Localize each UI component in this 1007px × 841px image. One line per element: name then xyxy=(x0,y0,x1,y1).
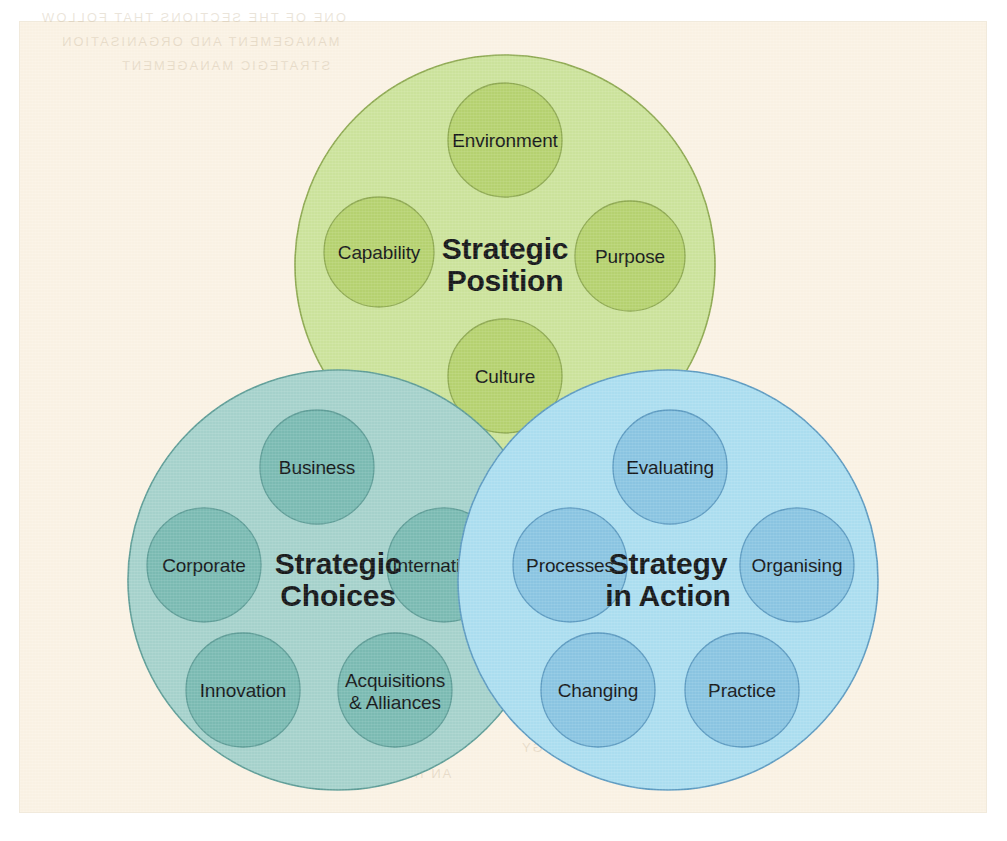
node-organising[interactable]: Organising xyxy=(740,508,854,622)
node-label: Capability xyxy=(338,242,421,263)
node-label-line2: & Alliances xyxy=(349,692,441,713)
node-label: Purpose xyxy=(595,246,665,267)
circle-title-line1: Strategic xyxy=(442,232,569,265)
node-evaluating[interactable]: Evaluating xyxy=(613,410,727,524)
node-practice[interactable]: Practice xyxy=(685,633,799,747)
node-label: Processes xyxy=(526,555,614,576)
circle-title-strategic-choices: StrategicChoices xyxy=(275,547,402,612)
node-label: Innovation xyxy=(200,680,287,701)
circle-title-line1: Strategic xyxy=(275,547,402,580)
node-label: Practice xyxy=(708,680,776,701)
node-label: Changing xyxy=(558,680,639,701)
circle-title-line2: Position xyxy=(447,264,564,297)
circle-title-line2: Choices xyxy=(280,579,395,612)
node-innovation[interactable]: Innovation xyxy=(186,633,300,747)
node-label: Evaluating xyxy=(626,457,714,478)
node-label: Business xyxy=(279,457,355,478)
node-label: Corporate xyxy=(162,555,246,576)
circle-title-strategic-position: StrategicPosition xyxy=(442,232,569,297)
node-business[interactable]: Business xyxy=(260,410,374,524)
node-capability[interactable]: Capability xyxy=(324,197,434,307)
venn-diagram-svg: EnvironmentPurposeCultureCapabilityStrat… xyxy=(0,0,1007,841)
node-corporate[interactable]: Corporate xyxy=(147,508,261,622)
node-label: Culture xyxy=(475,366,536,387)
node-label: Organising xyxy=(752,555,843,576)
node-acquisitions-alliances[interactable]: Acquisitions& Alliances xyxy=(338,633,452,747)
circle-title-strategy-in-action: Strategyin Action xyxy=(605,547,730,612)
node-label: Environment xyxy=(452,130,558,151)
node-environment[interactable]: Environment xyxy=(448,83,562,197)
node-label: Acquisitions& Alliances xyxy=(345,670,445,713)
circle-title-line1: Strategy xyxy=(609,547,728,580)
node-label-line1: Acquisitions xyxy=(345,670,445,691)
node-purpose[interactable]: Purpose xyxy=(575,201,685,311)
figure-canvas: ONE OF THE SECTIONS THAT FOLLOWMANAGEMEN… xyxy=(0,0,1007,841)
circle-title-line2: in Action xyxy=(605,579,730,612)
node-changing[interactable]: Changing xyxy=(541,633,655,747)
circle-group-strategy-in-action[interactable]: EvaluatingOrganisingPracticeChangingProc… xyxy=(458,370,878,790)
exploring-strategy-model-diagram: EnvironmentPurposeCultureCapabilityStrat… xyxy=(0,0,1007,841)
